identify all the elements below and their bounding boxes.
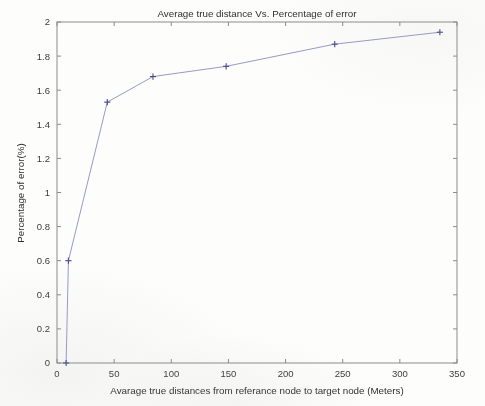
line-chart: 050100150200250300350 00.20.40.60.811.21… <box>0 0 485 406</box>
x-tick-label: 300 <box>392 368 408 379</box>
y-tick-label: 0.8 <box>37 221 50 232</box>
chart-page: 050100150200250300350 00.20.40.60.811.21… <box>0 0 485 406</box>
y-tick-label: 0.6 <box>37 255 50 266</box>
data-point-marker <box>104 99 110 105</box>
y-tick-label: 0 <box>45 357 50 368</box>
y-tick-label: 1.2 <box>37 153 50 164</box>
data-point-marker <box>223 63 229 69</box>
data-point-marker <box>437 29 443 35</box>
x-tick-label: 350 <box>449 368 465 379</box>
y-tick-label: 1.8 <box>37 51 50 62</box>
data-point-marker <box>332 41 338 47</box>
x-tick-label: 150 <box>220 368 236 379</box>
y-tick-label: 0.2 <box>37 323 50 334</box>
chart-title: Average true distance Vs. Percentage of … <box>157 8 357 19</box>
plot-frame <box>57 22 457 363</box>
x-tick-label: 50 <box>109 368 120 379</box>
x-tick-label: 200 <box>278 368 294 379</box>
data-point-marker <box>150 73 156 79</box>
x-tick-label: 250 <box>335 368 351 379</box>
data-series-markers <box>63 29 443 366</box>
data-point-marker <box>65 258 71 264</box>
y-tick-label: 2 <box>45 16 50 27</box>
x-axis-ticks <box>57 22 457 363</box>
y-axis-label: Percentage of error(%) <box>15 143 26 243</box>
y-tick-label: 1.4 <box>37 119 50 130</box>
y-tick-label: 1 <box>45 187 50 198</box>
y-tick-label: 0.4 <box>37 289 50 300</box>
y-axis-ticks <box>57 22 457 363</box>
x-tick-label: 0 <box>54 368 59 379</box>
x-axis-label: Avarage true distances from referance no… <box>110 385 403 396</box>
x-tick-label: 100 <box>163 368 179 379</box>
x-axis-tick-labels: 050100150200250300350 <box>54 368 465 379</box>
y-axis-tick-labels: 00.20.40.60.811.21.41.61.82 <box>37 16 50 368</box>
data-series-line <box>66 32 440 363</box>
y-tick-label: 1.6 <box>37 85 50 96</box>
data-point-marker <box>63 360 69 366</box>
